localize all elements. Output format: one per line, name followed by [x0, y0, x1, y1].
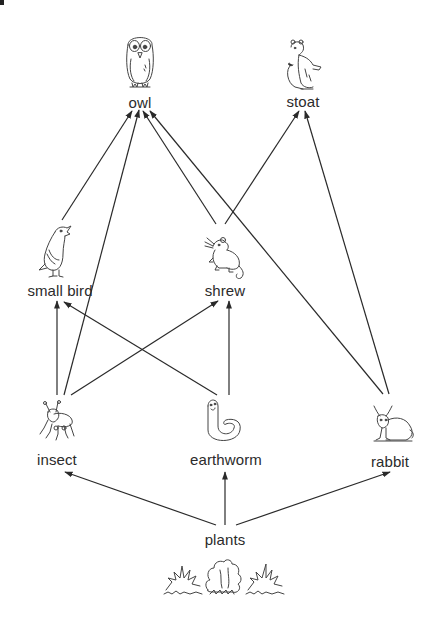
node-stoat: stoat	[270, 36, 336, 112]
plants-icon	[162, 552, 288, 596]
arrow-rabbit-to-owl	[150, 111, 383, 394]
arrow-shrew-to-owl	[143, 111, 216, 224]
arrow-shrew-to-stoat	[225, 111, 299, 224]
insect-icon	[36, 400, 76, 442]
rabbit-icon	[368, 404, 416, 444]
node-plants: plants	[155, 530, 295, 596]
stoat-icon	[283, 39, 327, 95]
earthworm-icon	[202, 398, 242, 446]
node-earthworm: earthworm	[180, 396, 272, 470]
node-insect: insect	[22, 398, 92, 470]
shrew-icon	[201, 236, 249, 280]
arrow-small-bird-to-owl	[62, 111, 132, 220]
arrow-plants-to-rabbit	[236, 472, 390, 525]
node-rabbit: rabbit	[355, 402, 425, 470]
small-bird-icon	[37, 224, 73, 278]
node-owl: owl	[110, 28, 170, 112]
node-label: stoat	[270, 94, 336, 110]
arrow-rabbit-to-stoat	[305, 111, 389, 394]
node-label: shrew	[190, 283, 260, 299]
node-label: plants	[155, 532, 295, 548]
arrow-plants-to-insect	[65, 472, 216, 525]
node-label: rabbit	[355, 454, 425, 470]
node-small-bird: small bird	[18, 222, 102, 302]
node-label: earthworm	[180, 452, 272, 468]
node-label: insect	[22, 452, 92, 468]
node-label: small bird	[18, 283, 102, 299]
node-label: owl	[110, 95, 170, 111]
arrow-insect-to-shrew	[71, 301, 218, 395]
node-shrew: shrew	[190, 232, 260, 302]
owl-icon	[123, 31, 157, 93]
